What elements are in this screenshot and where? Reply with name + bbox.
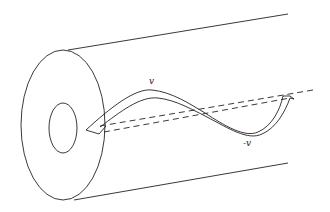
- label-negative-v: -v: [243, 138, 251, 148]
- cylinder-bottom-edge: [74, 163, 288, 200]
- cylinder-inner-bore: [49, 103, 77, 153]
- wave-ribbon: [86, 90, 294, 136]
- dashed-axis: [100, 90, 313, 132]
- label-positive-v: v: [149, 76, 154, 86]
- cylinder-outer-end: [21, 50, 105, 200]
- diagram-canvas: v -v: [0, 0, 330, 212]
- cylinder-top-edge: [68, 14, 288, 50]
